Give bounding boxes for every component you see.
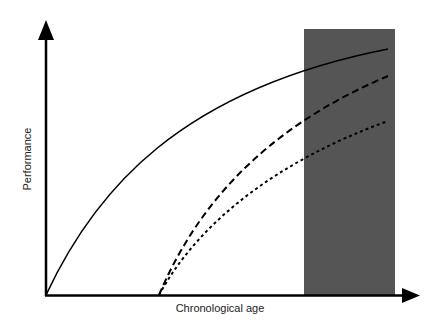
y-axis-label: Performance: [21, 114, 33, 204]
x-axis-label: Chronological age: [100, 302, 340, 314]
shaded-region: [304, 29, 395, 296]
x-axis-arrow-icon: [402, 288, 420, 303]
chart-canvas: [0, 0, 438, 330]
y-axis-arrow-icon: [38, 20, 54, 40]
